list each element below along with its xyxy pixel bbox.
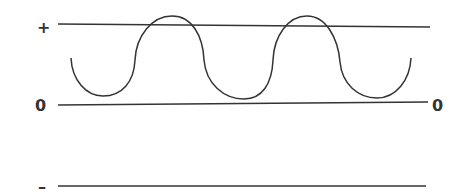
plus-label: + xyxy=(37,18,50,37)
zero-label-right: 0 xyxy=(432,96,443,115)
zero-label-left: 0 xyxy=(35,96,46,115)
waveform-curve xyxy=(71,16,411,99)
minus-label: – xyxy=(38,177,46,195)
waveform-diagram: + 0 0 – xyxy=(0,0,468,195)
zero-level-line xyxy=(58,102,428,105)
positive-level-line xyxy=(58,24,430,27)
